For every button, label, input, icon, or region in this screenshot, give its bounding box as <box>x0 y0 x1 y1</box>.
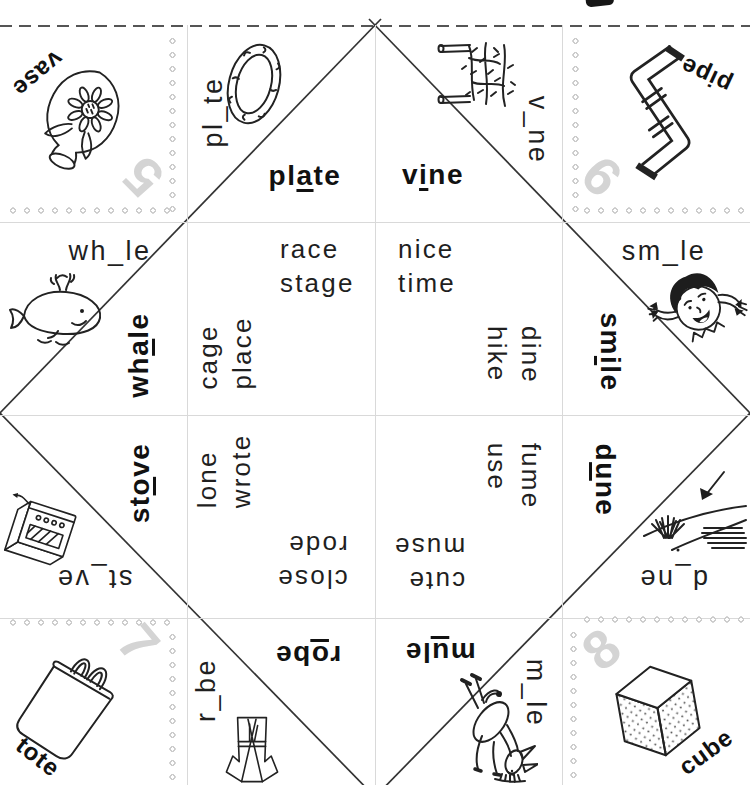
mule-image <box>450 672 538 784</box>
plate-image <box>217 36 291 131</box>
word-part: v <box>402 159 419 190</box>
word-part: pl <box>269 160 297 191</box>
answer-word-mule: mule <box>404 636 475 668</box>
word-list-long-i-rotated: dine hike <box>480 326 548 384</box>
whale-image <box>8 268 124 350</box>
practice-word: muse <box>393 530 465 564</box>
word-part: be <box>275 640 311 671</box>
word-part: sm <box>595 312 626 355</box>
practice-word: hike <box>480 326 514 384</box>
blank-word-vine: v_ne <box>522 96 553 165</box>
blank-word-stove: st_ve <box>55 563 132 594</box>
practice-word: dine <box>514 326 548 384</box>
word-list-long-u-rotated: fume use <box>480 443 548 510</box>
word-vowel: a <box>296 160 313 191</box>
practice-word: fume <box>514 443 548 510</box>
word-vowel: u <box>590 462 621 481</box>
word-list-long-a-rotated: cage place <box>191 316 259 389</box>
blank-word-dune: d_ne <box>638 563 708 594</box>
answer-word-stove: stove <box>124 443 156 524</box>
perforation-dots <box>580 615 744 624</box>
practice-word: cute <box>393 564 465 598</box>
grid-line-vertical <box>187 25 188 785</box>
answer-word-whale: whale <box>123 312 155 397</box>
phonics-fortune-teller-worksheet: vase 5 pl_te plate <box>0 0 750 785</box>
practice-word: lone <box>190 434 224 509</box>
word-part: le <box>404 637 430 668</box>
word-vowel: o <box>310 640 329 671</box>
answer-word-robe: robe <box>275 639 342 671</box>
practice-word: stage <box>280 266 355 300</box>
practice-word: time <box>398 266 456 300</box>
perforation-dots <box>580 206 744 215</box>
word-part: ne <box>590 481 621 517</box>
perforation-dots <box>168 34 177 212</box>
grid-line-horizontal <box>0 415 750 416</box>
practice-word: rode <box>276 528 348 562</box>
word-part: wh <box>123 356 154 398</box>
answer-word-plate: plate <box>269 160 342 192</box>
word-part: m <box>449 637 475 668</box>
practice-word: place <box>225 316 259 389</box>
answer-word-dune: dune <box>589 444 621 517</box>
word-vowel: o <box>124 477 155 496</box>
perforation-dots <box>569 628 578 782</box>
practice-word: close <box>276 562 348 596</box>
word-vowel: i <box>419 159 428 190</box>
word-part: d <box>590 444 621 463</box>
answer-word-vine: vine <box>402 159 464 191</box>
corner-number-5: 5 <box>110 144 175 209</box>
practice-word: nice <box>398 232 456 266</box>
word-vowel: i <box>595 356 626 365</box>
practice-word: race <box>280 232 355 266</box>
answer-word-smile: smile <box>594 312 626 391</box>
grid-line-vertical <box>375 25 376 785</box>
vine-image <box>436 38 524 112</box>
word-part: le <box>123 312 154 338</box>
word-part: st <box>124 495 155 523</box>
word-part: r <box>329 640 341 671</box>
practice-word: cage <box>191 316 225 389</box>
word-part: le <box>595 365 626 391</box>
grid-line-horizontal <box>0 222 750 223</box>
word-list-long-a-upright: race stage <box>280 232 355 300</box>
word-list-long-o-inverted: close rode <box>276 528 348 596</box>
word-vowel: a <box>123 339 154 356</box>
perforation-dots <box>168 630 177 782</box>
perforation-dots <box>6 206 172 215</box>
pipe-image <box>598 45 706 187</box>
practice-word: use <box>480 443 514 510</box>
word-list-long-u-inverted: cute muse <box>393 530 465 598</box>
grid-line-vertical <box>562 25 563 785</box>
word-part: te <box>314 160 342 191</box>
word-part: ve <box>124 443 155 477</box>
word-list-long-o-rotated: lone wrote <box>190 434 258 509</box>
blank-word-whale: wh_le <box>68 236 151 267</box>
word-vowel: u <box>431 637 450 668</box>
sand-dune-image <box>642 458 748 570</box>
scissors-icon <box>586 0 615 7</box>
robe-image <box>212 712 292 785</box>
practice-word: wrote <box>224 434 258 509</box>
word-list-long-i-upright: nice time <box>398 232 456 300</box>
word-part: ne <box>428 159 464 190</box>
